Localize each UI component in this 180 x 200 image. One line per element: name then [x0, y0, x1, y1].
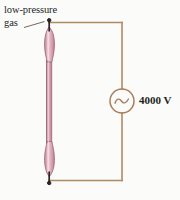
ac-source-symbol	[110, 89, 134, 113]
voltage-label: 4000 V	[139, 94, 172, 106]
circuit-wires	[49, 23, 122, 181]
tube-upper-bulb	[45, 27, 55, 62]
sine-wave-icon	[115, 99, 128, 103]
gas-label: low-pressure gas	[4, 4, 78, 29]
tube-lower-bulb	[45, 142, 55, 177]
tube-neck	[47, 60, 52, 144]
circuit-diagram-figure: low-pressure gas 4000 V	[0, 0, 180, 200]
discharge-tube	[45, 19, 55, 185]
electrode-bottom-cap	[48, 181, 51, 184]
